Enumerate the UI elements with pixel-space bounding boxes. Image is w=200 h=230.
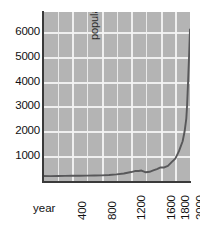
x-tick-label: 1800 bbox=[180, 195, 191, 220]
x-tick-label: 1600 bbox=[166, 195, 177, 220]
x-tick-label: 400 bbox=[77, 201, 88, 220]
x-axis-tick-labels: 4008001200160018002000 bbox=[0, 0, 200, 230]
population-growth-chart: population in millions 10002000300040005… bbox=[0, 0, 200, 230]
x-tick-label: 1200 bbox=[136, 195, 147, 220]
x-axis-title: year bbox=[33, 202, 55, 214]
x-tick-label: 2000 bbox=[195, 195, 200, 220]
x-tick-label: 800 bbox=[107, 201, 118, 220]
